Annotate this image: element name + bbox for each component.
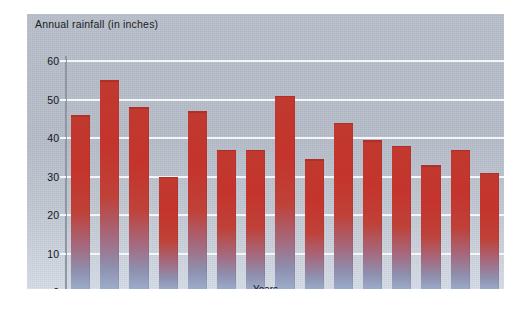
- bar-cap: [363, 140, 382, 142]
- chart-title: Annual rainfall (in inches): [35, 18, 158, 30]
- bar-cap: [421, 165, 440, 167]
- bar-cap: [100, 80, 119, 82]
- chart-panel: Annual rainfall (in inches) 010203040506…: [27, 14, 504, 289]
- bar-cap: [246, 150, 265, 152]
- bar: [480, 173, 499, 289]
- bar: [363, 140, 382, 289]
- y-tick-label-50: 50: [47, 94, 59, 106]
- bar: [392, 146, 411, 289]
- bar-cap: [480, 173, 499, 175]
- bar-series: [66, 42, 504, 289]
- bar-cap: [334, 123, 353, 125]
- bar: [188, 111, 207, 289]
- y-tick-label-10: 10: [47, 248, 59, 260]
- y-tick-label-40: 40: [47, 132, 59, 144]
- y-tick-label-60: 60: [47, 55, 59, 67]
- bar: [217, 150, 236, 289]
- bar: [305, 159, 324, 289]
- plot-area: 01020304050601951195519591963: [66, 42, 504, 289]
- y-tick-label-30: 30: [47, 171, 59, 183]
- y-tick-label-20: 20: [47, 209, 59, 221]
- y-tick-label-0: 0: [53, 286, 59, 289]
- rainfall-bar-chart: Annual rainfall (in inches) 010203040506…: [0, 0, 532, 325]
- bar-cap: [217, 150, 236, 152]
- y-tick-mark-40: [60, 137, 66, 139]
- bar-cap: [392, 146, 411, 148]
- bar: [275, 96, 294, 289]
- bar: [100, 80, 119, 289]
- y-tick-mark-30: [60, 176, 66, 178]
- bar: [159, 177, 178, 289]
- bar: [129, 107, 148, 289]
- bar-cap: [129, 107, 148, 109]
- bar-cap: [159, 177, 178, 179]
- bar-cap: [305, 159, 324, 161]
- bar-cap: [71, 115, 90, 117]
- y-tick-mark-10: [60, 253, 66, 255]
- bar-cap: [275, 96, 294, 98]
- bar-cap: [188, 111, 207, 113]
- y-tick-mark-60: [60, 60, 66, 62]
- bar: [71, 115, 90, 289]
- bar: [451, 150, 470, 289]
- bar: [421, 165, 440, 289]
- bar: [246, 150, 265, 289]
- bar: [334, 123, 353, 289]
- bar-cap: [451, 150, 470, 152]
- y-tick-mark-50: [60, 99, 66, 101]
- x-axis-title: Years: [253, 284, 278, 289]
- y-tick-mark-20: [60, 214, 66, 216]
